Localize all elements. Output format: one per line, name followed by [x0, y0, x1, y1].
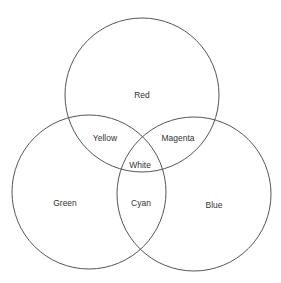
venn-diagram: Red Yellow Magenta White Green Cyan Blue — [0, 0, 281, 283]
label-green: Green — [53, 198, 77, 208]
label-red: Red — [134, 90, 150, 100]
label-magenta: Magenta — [161, 133, 194, 143]
label-white: White — [129, 160, 151, 170]
label-yellow: Yellow — [93, 133, 118, 143]
label-cyan: Cyan — [131, 198, 151, 208]
green-circle — [12, 115, 166, 269]
label-blue: Blue — [205, 200, 222, 210]
